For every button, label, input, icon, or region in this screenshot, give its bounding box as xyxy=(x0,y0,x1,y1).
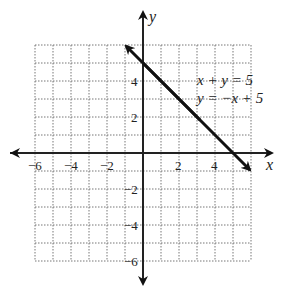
x-tick-label: −6 xyxy=(28,158,42,173)
x-tick-label: −4 xyxy=(64,158,78,173)
x-tick-label: 2 xyxy=(175,158,182,173)
coordinate-plane: x y −6 −4 −2 2 4 4 2 −2 −4 −6 x + y = 5 … xyxy=(0,0,289,290)
x-axis-label: x xyxy=(265,156,273,173)
y-tick-label: −6 xyxy=(124,254,138,269)
x-tick-label: 4 xyxy=(211,158,218,173)
x-tick-label: −2 xyxy=(100,158,114,173)
equation-label-slope-intercept: y = −x + 5 xyxy=(195,90,264,106)
y-tick-label: −2 xyxy=(124,182,138,197)
y-tick-label: −4 xyxy=(124,218,138,233)
y-tick-label: 4 xyxy=(131,74,138,89)
equation-label-standard: x + y = 5 xyxy=(196,72,254,88)
y-axis-label: y xyxy=(147,8,157,26)
y-tick-label: 2 xyxy=(131,110,138,125)
